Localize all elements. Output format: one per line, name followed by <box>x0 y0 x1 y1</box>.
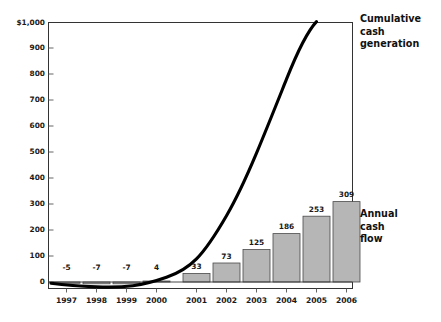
chart-container: 0 100 200 300 400 500 600 700 800 900 $1… <box>0 0 441 322</box>
y-tick-0: 0 <box>40 277 45 286</box>
bar-label-2000: 4 <box>154 263 159 272</box>
y-tick-400: 400 <box>30 173 45 182</box>
x-tick-2000: 2000 <box>146 296 167 305</box>
y-tick-200: 200 <box>30 225 45 234</box>
cash-generation-chart: 0 100 200 300 400 500 600 700 800 900 $1… <box>0 0 441 322</box>
bar-label-1998: -7 <box>92 263 100 272</box>
x-tick-2006: 2006 <box>336 296 357 305</box>
y-tick-1000: $1,000 <box>16 18 45 27</box>
annotation-cumulative-line1: Cumulative <box>360 13 422 24</box>
y-tick-300: 300 <box>30 199 45 208</box>
bar-2004 <box>273 234 300 282</box>
x-tick-2002: 2002 <box>216 296 237 305</box>
annotation-cumulative-line2: cash <box>360 26 385 37</box>
bar-2001 <box>183 273 210 282</box>
bar-label-2004: 186 <box>279 222 294 231</box>
bar-2002 <box>213 263 240 282</box>
bar-label-2005: 253 <box>309 205 324 214</box>
y-tick-marks <box>49 48 54 282</box>
x-tick-2003: 2003 <box>246 296 267 305</box>
y-tick-700: 700 <box>30 95 45 104</box>
x-tick-marks <box>67 289 347 293</box>
x-tick-2001: 2001 <box>186 296 207 305</box>
annotation-cumulative-cash-generation: Cumulative cash generation <box>360 13 422 49</box>
x-tick-1997: 1997 <box>56 296 77 305</box>
bar-2006 <box>333 202 360 282</box>
x-axis-labels: 1997 1998 1999 2000 2001 2002 2003 2004 … <box>56 296 357 305</box>
y-tick-600: 600 <box>30 121 45 130</box>
x-tick-1999: 1999 <box>116 296 137 305</box>
bar-label-1999: -7 <box>122 263 130 272</box>
bar-label-2006: 309 <box>339 190 354 199</box>
annotation-annual-line2: cash <box>360 221 385 232</box>
annotation-annual-line1: Annual <box>360 208 398 219</box>
annotation-annual-cash-flow: Annual cash flow <box>360 208 398 244</box>
y-tick-100: 100 <box>30 251 45 260</box>
x-tick-2004: 2004 <box>276 296 297 305</box>
bar-2005 <box>303 216 330 282</box>
bar-label-2001: 33 <box>191 262 201 271</box>
x-tick-1998: 1998 <box>86 296 107 305</box>
bar-label-2002: 73 <box>221 252 231 261</box>
annotation-cumulative-line3: generation <box>360 38 419 49</box>
bar-label-1997: -5 <box>62 263 70 272</box>
y-tick-800: 800 <box>30 69 45 78</box>
x-tick-2005: 2005 <box>306 296 327 305</box>
y-axis-labels: 0 100 200 300 400 500 600 700 800 900 $1… <box>16 18 45 287</box>
annotation-annual-line3: flow <box>360 233 383 244</box>
bar-label-2003: 125 <box>249 238 264 247</box>
y-tick-500: 500 <box>30 147 45 156</box>
bar-2003 <box>243 250 270 283</box>
y-tick-900: 900 <box>30 43 45 52</box>
